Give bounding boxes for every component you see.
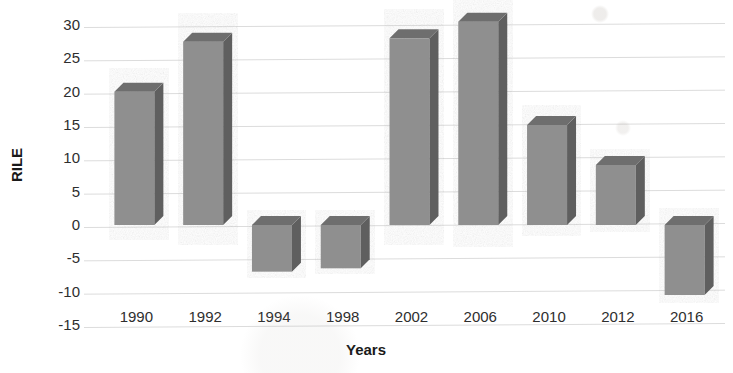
y-tick-label: -10 — [58, 283, 80, 300]
x-tick-label: 2002 — [395, 308, 428, 325]
x-tick-label: 2010 — [532, 308, 565, 325]
bar — [527, 116, 576, 225]
bar-side-face — [223, 33, 232, 225]
bar-side-face — [430, 29, 439, 225]
gridline — [84, 257, 725, 261]
y-tick-label: 5 — [72, 183, 80, 200]
bar-front-face — [114, 92, 154, 225]
bar-front-face — [321, 225, 361, 268]
bar — [596, 156, 645, 225]
gridline — [84, 24, 725, 28]
y-tick-label: 20 — [63, 83, 80, 100]
bar-side-face — [636, 156, 645, 225]
x-tick-label: 2016 — [670, 308, 703, 325]
y-axis-tick-labels: 302520151050-5-10-15 — [58, 16, 80, 333]
x-tick-label: 1992 — [188, 308, 221, 325]
x-tick-label: 2006 — [464, 308, 497, 325]
bar-side-face — [567, 116, 576, 225]
bar-side-face — [705, 216, 714, 295]
bar — [252, 216, 301, 272]
x-axis-tick-labels: 199019921994199820022006201020122016 — [120, 308, 704, 325]
bars-group — [114, 13, 713, 295]
bar — [665, 216, 714, 295]
bar-side-face — [361, 216, 370, 268]
x-tick-label: 1994 — [257, 308, 290, 325]
bar-front-face — [527, 125, 567, 225]
y-tick-label: 30 — [63, 16, 80, 33]
bar-front-face — [458, 22, 498, 225]
y-axis-title: RILE — [8, 148, 25, 182]
bar — [114, 83, 163, 225]
x-tick-label: 1990 — [120, 308, 153, 325]
bar-chart: 302520151050-5-10-15 1990199219941998200… — [0, 0, 733, 373]
gridline — [84, 290, 725, 294]
bar — [458, 13, 507, 225]
bar-side-face — [498, 13, 507, 225]
y-tick-label: 0 — [72, 216, 80, 233]
bar — [321, 216, 370, 268]
y-tick-label: 25 — [63, 49, 80, 66]
bar-side-face — [154, 83, 163, 225]
bar-front-face — [252, 225, 292, 272]
x-axis-title: Years — [346, 341, 386, 358]
x-tick-label: 2012 — [601, 308, 634, 325]
y-tick-label: -15 — [58, 316, 80, 333]
bar-front-face — [183, 42, 223, 225]
chart-canvas: 302520151050-5-10-15 1990199219941998200… — [0, 0, 733, 373]
y-tick-label: -5 — [67, 249, 80, 266]
bar — [183, 33, 232, 225]
y-tick-label: 10 — [63, 149, 80, 166]
bar-front-face — [665, 225, 705, 295]
x-tick-label: 1998 — [326, 308, 359, 325]
bar-front-face — [390, 38, 430, 225]
bar-front-face — [596, 165, 636, 225]
bar — [390, 29, 439, 225]
bar-side-face — [292, 216, 301, 272]
y-tick-label: 15 — [63, 116, 80, 133]
